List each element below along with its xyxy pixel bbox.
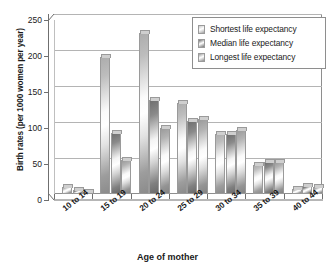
bar-top-face <box>178 100 188 104</box>
y-tick-mark <box>44 164 49 165</box>
legend-label: Longest life expectancy <box>210 52 295 62</box>
x-tick-mark <box>322 194 323 199</box>
bar <box>187 121 197 194</box>
y-tick-label: 200 <box>12 52 42 61</box>
bar <box>149 100 159 194</box>
y-axis-front-line <box>54 20 55 200</box>
bar-top-face <box>303 183 313 187</box>
legend-swatch-icon <box>198 25 205 34</box>
y-tick-label: 250 <box>12 16 42 25</box>
legend-item: Shortest life expectancy <box>198 22 321 36</box>
legend-item: Median life expectancy <box>198 36 321 50</box>
legend-label: Shortest life expectancy <box>210 24 297 34</box>
bar-top-face <box>150 97 160 101</box>
x-tick-mark <box>207 194 208 199</box>
bar <box>226 134 236 194</box>
bar-top-face <box>112 130 122 134</box>
y-tick-mark <box>44 56 49 57</box>
bar-top-face <box>275 159 285 163</box>
legend-label: Median life expectancy <box>210 38 293 48</box>
bar-top-face <box>101 54 111 58</box>
bar-top-face <box>161 125 171 129</box>
x-tick-mark <box>131 194 132 199</box>
x-tick-mark <box>92 194 93 199</box>
bar-top-face <box>140 30 150 34</box>
bar-top-face <box>188 118 198 122</box>
y-tick-mark <box>44 92 49 93</box>
y-axis-line <box>48 14 49 200</box>
bar-top-face <box>227 131 237 135</box>
bar <box>139 33 149 194</box>
y-tick-mark <box>44 128 49 129</box>
y-axis-tick-labels: 050100150200250 <box>8 0 42 274</box>
bar-top-face <box>293 186 303 190</box>
legend-swatch-icon <box>198 53 205 62</box>
y-tick-label: 0 <box>12 196 42 205</box>
bar-chart: Birth rates (per 1000 women per year) 05… <box>0 0 335 274</box>
bar <box>111 133 121 194</box>
bar-top-face <box>199 116 209 120</box>
bar-top-face <box>216 131 226 135</box>
y-tick-label: 50 <box>12 160 42 169</box>
x-tick-mark <box>245 194 246 199</box>
bar-group <box>139 14 177 194</box>
bar-group <box>62 14 100 194</box>
bar-top-face <box>63 184 73 188</box>
bar-top-face <box>265 159 275 163</box>
x-tick-mark <box>284 194 285 199</box>
y-tick-label: 150 <box>12 88 42 97</box>
x-tick-mark <box>54 194 55 199</box>
y-tick-label: 100 <box>12 124 42 133</box>
legend-swatch-icon <box>198 39 205 48</box>
chart-legend: Shortest life expectancyMedian life expe… <box>192 17 326 69</box>
bar-top-face <box>122 157 132 161</box>
bar-group <box>100 14 138 194</box>
y-tick-mark <box>44 20 49 21</box>
legend-item: Longest life expectancy <box>198 50 321 64</box>
x-tick-mark <box>169 194 170 199</box>
bar-top-face <box>254 162 264 166</box>
x-axis-title: Age of mother <box>0 252 335 262</box>
bar-top-face <box>237 127 247 131</box>
